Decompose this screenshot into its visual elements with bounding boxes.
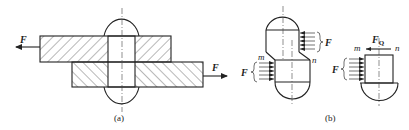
rivet-lower-head: [104, 87, 139, 104]
section-m-label-2: m: [354, 43, 361, 53]
figure-a: F F (a): [16, 8, 227, 123]
rivet-shear-diagram: F F (a) F: [0, 0, 409, 130]
section-n-label-2: n: [395, 43, 400, 53]
upper-distributed-force: F: [300, 32, 332, 52]
lower-head: [275, 82, 310, 99]
upper-plate: [40, 36, 171, 62]
force-left-arrow: F: [16, 34, 40, 47]
rivet-upper-head: [104, 19, 139, 36]
section-force-label: F: [331, 64, 339, 75]
section-n-label: n: [312, 55, 317, 65]
force-left-label: F: [19, 34, 27, 45]
shear-force-label: FQ: [371, 34, 385, 47]
shear-force-arrow: FQ: [366, 34, 391, 49]
rivet: [104, 8, 139, 112]
lower-force-label: F: [240, 67, 248, 78]
section-distributed-force: F: [331, 58, 364, 80]
upper-force-label: F: [324, 37, 332, 48]
caption-b: (b): [325, 113, 336, 123]
lower-plate: [72, 62, 203, 87]
caption-a: (a): [114, 113, 124, 123]
section-m-label: m: [258, 52, 265, 62]
lower-distributed-force: F: [240, 62, 274, 82]
force-right-arrow: F: [203, 62, 227, 76]
figure-b-section: FQ m n F: [331, 34, 400, 106]
figure-b-rivet-body: F F m n: [240, 6, 332, 106]
upper-head: [266, 17, 299, 30]
force-right-label: F: [211, 62, 219, 73]
